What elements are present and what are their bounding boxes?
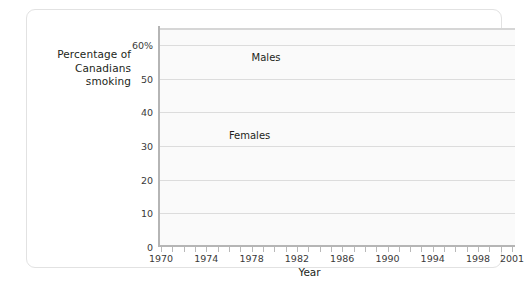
x-tick-mark-1997	[467, 247, 468, 252]
x-tick-mark-1980	[274, 247, 275, 252]
y-axis-title: Percentage of Canadians smoking	[39, 48, 131, 89]
y-tick-label-50: 50	[141, 73, 153, 84]
y-tick-label-20: 20	[141, 174, 153, 185]
x-tick-mark-1986	[342, 247, 343, 252]
x-tick-label-1986: 1986	[330, 253, 354, 264]
y-tick-label-40: 40	[141, 107, 153, 118]
chart-card: Percentage of Canadians smoking 19701974…	[26, 9, 502, 268]
gridline-50	[158, 79, 515, 80]
gridlines	[158, 28, 515, 247]
x-tick-mark-1987	[354, 247, 355, 252]
x-axis-line	[158, 245, 515, 247]
series-label-females: Females	[229, 130, 270, 141]
x-tick-label-1974: 1974	[194, 253, 218, 264]
x-tick-label-1990: 1990	[375, 253, 399, 264]
x-tick-mark-1999	[489, 247, 490, 252]
x-tick-mark-1984	[320, 247, 321, 252]
x-tick-mark-1976	[229, 247, 230, 252]
y-tick-label-10: 10	[141, 208, 153, 219]
x-tick-label-1994: 1994	[421, 253, 445, 264]
y-axis-title-line-1: Percentage of	[39, 48, 131, 62]
y-tick-label-30: 30	[141, 140, 153, 151]
x-tick-mark-1992	[410, 247, 411, 252]
series-label-males: Males	[252, 52, 281, 63]
x-tick-mark-1991	[399, 247, 400, 252]
x-tick-mark-1973	[195, 247, 196, 252]
x-tick-mark-1972	[184, 247, 185, 252]
x-tick-mark-1974	[206, 247, 207, 252]
y-axis-line	[158, 26, 160, 247]
x-tick-mark-1990	[388, 247, 389, 252]
y-tick-label-60: 60%	[132, 39, 153, 50]
gridline-40	[158, 112, 515, 113]
x-tick-mark-1978	[252, 247, 253, 252]
x-tick-mark-2001	[512, 247, 513, 252]
plot-area: 197019741978198219861990199419982001 010…	[158, 28, 515, 247]
x-tick-mark-1982	[297, 247, 298, 252]
x-tick-mark-1996	[455, 247, 456, 252]
x-axis-title: Year	[131, 266, 488, 278]
x-tick-mark-1993	[421, 247, 422, 252]
x-tick-mark-1971	[172, 247, 173, 252]
gridline-10	[158, 213, 515, 214]
x-tick-label-1978: 1978	[240, 253, 264, 264]
x-tick-mark-1970	[161, 247, 162, 252]
x-tick-mark-1975	[218, 247, 219, 252]
x-tick-mark-1977	[240, 247, 241, 252]
y-axis-title-line-2: Canadians	[39, 62, 131, 76]
x-tick-mark-2000	[501, 247, 502, 252]
x-tick-label-2001: 2001	[500, 253, 524, 264]
x-tick-label-1998: 1998	[466, 253, 490, 264]
x-tick-mark-1985	[331, 247, 332, 252]
gridline-30	[158, 146, 515, 147]
x-tick-mark-1988	[365, 247, 366, 252]
x-tick-mark-1994	[433, 247, 434, 252]
x-tick-mark-1998	[478, 247, 479, 252]
y-tick-label-0: 0	[147, 242, 153, 253]
gridline-60	[158, 45, 515, 46]
x-tick-mark-1979	[263, 247, 264, 252]
x-tick-mark-1983	[308, 247, 309, 252]
chart-figure: Percentage of Canadians smoking 19701974…	[0, 0, 524, 301]
y-axis-title-line-3: smoking	[39, 75, 131, 89]
x-tick-mark-1981	[286, 247, 287, 252]
x-tick-label-1970: 1970	[149, 253, 173, 264]
gridline-20	[158, 180, 515, 181]
x-tick-label-1982: 1982	[285, 253, 309, 264]
x-tick-mark-1989	[376, 247, 377, 252]
x-tick-mark-1995	[444, 247, 445, 252]
